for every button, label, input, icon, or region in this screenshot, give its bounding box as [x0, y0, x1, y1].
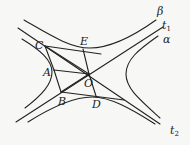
label-D: D	[92, 99, 101, 110]
label-E: E	[80, 36, 88, 47]
label-t1: t1	[162, 20, 171, 33]
label-t1-sub: 1	[166, 25, 170, 33]
label-t2: t2	[170, 125, 179, 138]
label-beta: β	[157, 6, 163, 17]
hyperbola-alpha-right	[126, 36, 160, 118]
segment-AB	[54, 70, 61, 92]
label-alpha: α	[163, 34, 170, 45]
label-O: O	[84, 78, 93, 89]
label-C: C	[35, 40, 43, 51]
tangent-at-E	[45, 46, 101, 54]
label-t2-sub: 2	[174, 130, 178, 138]
label-A: A	[43, 67, 51, 78]
label-B: B	[58, 96, 66, 107]
diagram-canvas: β t1 α t2 C E A O B D	[0, 0, 190, 145]
